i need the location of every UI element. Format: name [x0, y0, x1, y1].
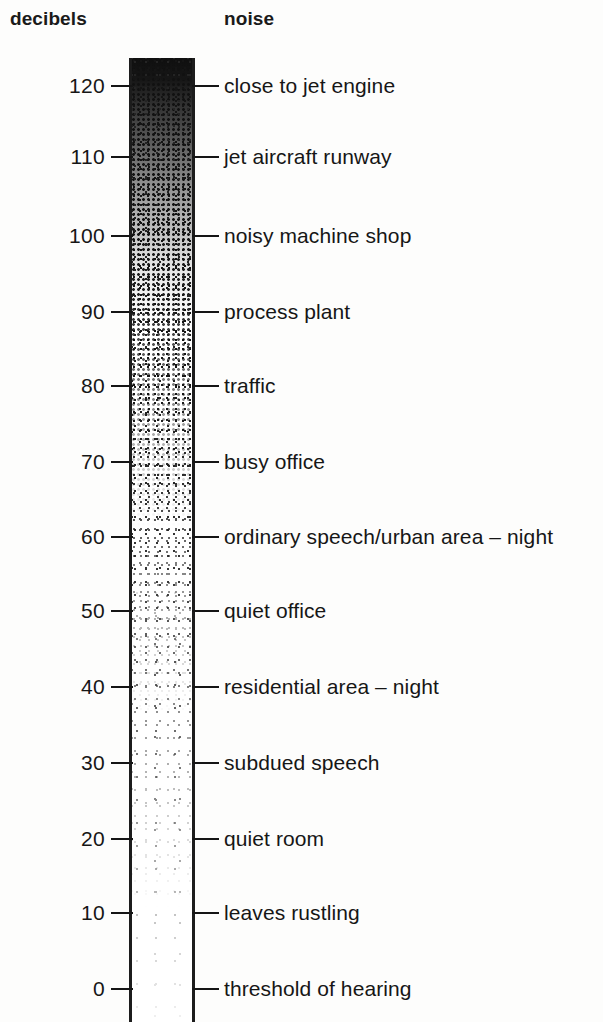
- tick-mark-left: [111, 912, 133, 914]
- decibel-value-label: 0: [93, 977, 105, 1001]
- decibel-scale-column: [129, 58, 195, 1022]
- tick-mark-left: [111, 85, 133, 87]
- noise-source-label: noisy machine shop: [224, 224, 411, 248]
- column-top-cap: [132, 58, 192, 60]
- tick-mark-left: [111, 311, 133, 313]
- decibel-value-label: 110: [71, 145, 105, 169]
- noise-decibel-scale-figure: decibels noise 120close to jet engine110…: [0, 0, 603, 1022]
- decibel-value-label: 20: [81, 827, 105, 851]
- tick-mark-left: [111, 686, 133, 688]
- decibel-value-label: 70: [81, 450, 105, 474]
- stipple-layer-sparse: [132, 58, 192, 1022]
- noise-source-label: traffic: [224, 374, 276, 398]
- noise-source-label: quiet office: [224, 599, 326, 623]
- decibel-value-label: 60: [81, 525, 105, 549]
- stipple-layer-medium: [132, 58, 192, 1022]
- tick-mark-right: [192, 686, 219, 688]
- noise-source-label: leaves rustling: [224, 901, 360, 925]
- tick-mark-right: [192, 838, 219, 840]
- noise-source-label: ordinary speech/urban area – night: [224, 525, 553, 549]
- noise-source-label: process plant: [224, 300, 350, 324]
- tick-mark-right: [192, 912, 219, 914]
- decibel-value-label: 30: [81, 751, 105, 775]
- decibel-value-label: 90: [81, 300, 105, 324]
- tick-mark-left: [111, 235, 133, 237]
- tick-mark-right: [192, 156, 219, 158]
- decibel-value-label: 10: [81, 901, 105, 925]
- tick-mark-left: [111, 762, 133, 764]
- tick-mark-right: [192, 311, 219, 313]
- tick-mark-left: [111, 838, 133, 840]
- decibel-value-label: 100: [69, 224, 105, 248]
- noise-source-label: residential area – night: [224, 675, 439, 699]
- decibel-value-label: 50: [81, 599, 105, 623]
- stipple-layer-dense: [132, 58, 192, 1022]
- stipple-wash: [132, 58, 192, 1022]
- tick-mark-left: [111, 610, 133, 612]
- tick-mark-left: [111, 385, 133, 387]
- stipple-layer-light: [132, 58, 192, 1022]
- tick-mark-right: [192, 536, 219, 538]
- tick-mark-right: [192, 610, 219, 612]
- decibel-value-label: 120: [69, 74, 105, 98]
- tick-mark-left: [111, 988, 133, 990]
- tick-mark-left: [111, 461, 133, 463]
- noise-source-label: subdued speech: [224, 751, 380, 775]
- tick-mark-right: [192, 385, 219, 387]
- noise-source-label: threshold of hearing: [224, 977, 412, 1001]
- tick-mark-left: [111, 536, 133, 538]
- noise-source-label: close to jet engine: [224, 74, 395, 98]
- tick-mark-right: [192, 235, 219, 237]
- column-header-noise: noise: [224, 8, 274, 30]
- tick-mark-left: [111, 156, 133, 158]
- tick-mark-right: [192, 988, 219, 990]
- decibel-value-label: 40: [81, 675, 105, 699]
- noise-source-label: quiet room: [224, 827, 324, 851]
- noise-source-label: busy office: [224, 450, 325, 474]
- tick-mark-right: [192, 85, 219, 87]
- noise-source-label: jet aircraft runway: [224, 145, 392, 169]
- column-header-decibels: decibels: [10, 8, 87, 30]
- decibel-value-label: 80: [81, 374, 105, 398]
- tick-mark-right: [192, 461, 219, 463]
- tick-mark-right: [192, 762, 219, 764]
